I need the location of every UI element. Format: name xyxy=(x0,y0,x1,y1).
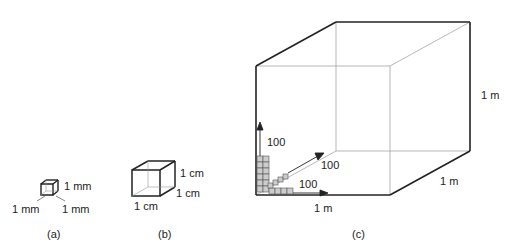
cube-c-width-label: 1 m xyxy=(314,203,332,214)
cube-b-depth-label: 1 cm xyxy=(176,188,200,199)
caption-b: (b) xyxy=(158,229,171,240)
arrow-right-label: 100 xyxy=(299,179,317,190)
cube-a-height-label: 1 mm xyxy=(64,181,92,192)
stacked-small-cubes xyxy=(257,156,293,194)
cube-c-depth-label: 1 m xyxy=(440,176,458,187)
cube-b-width-label: 1 cm xyxy=(134,201,158,212)
cube-b-height-label: 1 cm xyxy=(180,168,204,179)
arrow-diagonal-label: 100 xyxy=(321,160,339,171)
caption-c: (c) xyxy=(352,229,365,240)
cube-a-width-label: 1 mm xyxy=(12,204,40,215)
cube-c-height-label: 1 m xyxy=(481,90,499,101)
cube-1cm xyxy=(132,161,175,196)
caption-a: (a) xyxy=(47,229,60,240)
cube-1m xyxy=(256,22,470,196)
arrow-up-label: 100 xyxy=(267,137,285,148)
cube-a-depth-label: 1 mm xyxy=(62,204,90,215)
cube-1mm xyxy=(37,180,65,201)
